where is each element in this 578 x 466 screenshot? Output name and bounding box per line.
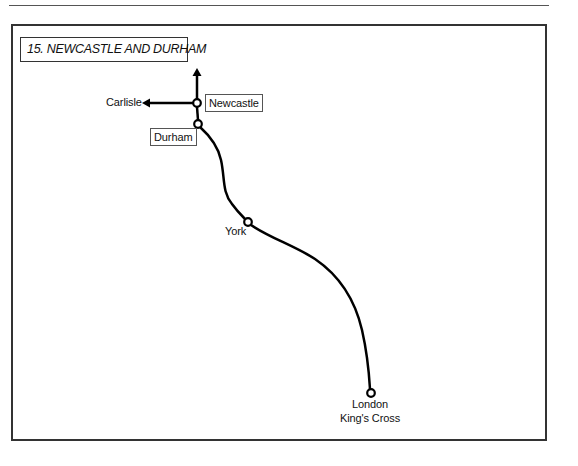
kings-cross-label: King's Cross bbox=[340, 412, 400, 424]
station-durham-icon[interactable] bbox=[194, 120, 202, 128]
york-label: York bbox=[225, 225, 246, 237]
north-arrow-icon bbox=[193, 68, 202, 99]
carlisle-label: Carlisle bbox=[106, 96, 142, 108]
london-label: London bbox=[352, 398, 388, 410]
durham-label: Durham bbox=[150, 128, 197, 146]
route-segment-newcastle-durham bbox=[197, 107, 198, 120]
route-segment-york-london bbox=[251, 225, 370, 389]
newcastle-label: Newcastle bbox=[205, 94, 263, 112]
route-map bbox=[0, 0, 578, 466]
station-newcastle-icon[interactable] bbox=[193, 99, 201, 107]
route-segment-durham-york bbox=[200, 127, 245, 219]
station-london-icon[interactable] bbox=[367, 389, 375, 397]
carlisle-arrow-icon bbox=[142, 99, 193, 108]
